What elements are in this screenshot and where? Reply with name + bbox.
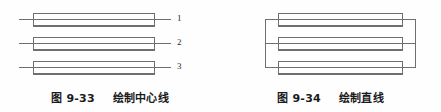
figure-9-33-caption-title: 绘制中心线 xyxy=(113,92,169,105)
figure-9-33-caption-number: 图 9-33 xyxy=(51,92,95,105)
figure-9-34-caption-title: 绘制直线 xyxy=(339,92,384,105)
callout-label-3: 3 xyxy=(177,62,182,71)
callout-label-1: 1 xyxy=(177,14,182,23)
figure-9-33: 1 2 3 图 9-33 绘制中心线 xyxy=(0,0,220,112)
figure-9-34: 图 9-34 绘制直线 xyxy=(220,0,441,112)
figure-9-34-drawing xyxy=(220,0,441,88)
figure-9-33-drawing xyxy=(0,0,220,88)
figure-9-34-caption-number: 图 9-34 xyxy=(277,92,321,105)
figure-9-33-caption: 图 9-33 绘制中心线 xyxy=(0,89,220,105)
figure-pair-container: 1 2 3 图 9-33 绘制中心线 xyxy=(0,0,441,112)
callout-label-2: 2 xyxy=(177,38,182,47)
figure-9-34-caption: 图 9-34 绘制直线 xyxy=(220,89,441,105)
